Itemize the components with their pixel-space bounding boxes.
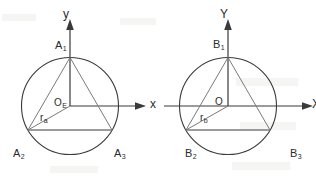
x-axis-arrowhead-a — [135, 102, 146, 110]
radius-line-a — [28, 106, 70, 130]
vertex-label-a2: A2 — [13, 148, 25, 159]
radius-subscript-b: b — [203, 117, 207, 124]
y-axis-label-b: Y — [220, 8, 228, 20]
origin-label-a: OE — [54, 98, 67, 108]
vertex-subscript-b2: 2 — [192, 153, 196, 160]
vertex-subscript-b1: 1 — [220, 44, 224, 51]
x-axis-label-a: x — [150, 98, 156, 110]
vertex-label-b1: B1 — [213, 39, 225, 50]
vertex-subscript-a3: 3 — [121, 153, 125, 160]
vertex-subscript-a2: 2 — [20, 153, 24, 160]
figure-canvas: y x OE ra A1 A2 A3 — [0, 0, 316, 184]
y-axis-label-a: y — [63, 8, 69, 20]
origin-subscript-b — [223, 101, 224, 108]
origin-label-b: O — [215, 97, 223, 107]
vertex-label-a3: A3 — [114, 148, 126, 159]
vertex-label-b3: B3 — [290, 148, 302, 159]
vertex-subscript-b3: 3 — [297, 153, 301, 160]
vertex-subscript-a1: 1 — [62, 45, 66, 52]
vertex-label-a1: A1 — [55, 40, 67, 51]
radius-label-b: rb — [200, 113, 208, 123]
panel-b: Y X O rb B1 B2 B3 — [158, 0, 316, 184]
origin-subscript-a: E — [62, 102, 67, 109]
radius-label-a: ra — [40, 113, 48, 123]
panel-a: y x OE ra A1 A2 A3 — [0, 0, 158, 184]
radius-subscript-a: a — [43, 117, 47, 124]
origin-letter-a: O — [54, 97, 62, 108]
origin-letter-b: O — [215, 96, 223, 107]
vertex-label-b2: B2 — [185, 148, 197, 159]
x-axis-label-b: X — [312, 98, 316, 110]
